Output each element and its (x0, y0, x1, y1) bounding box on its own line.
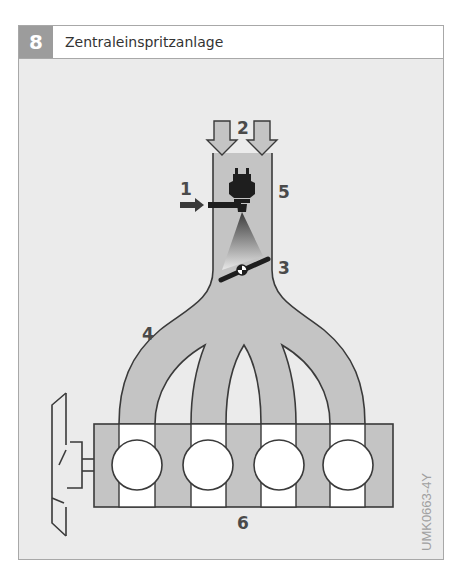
label-2: 2 (237, 118, 249, 138)
air-arrow-right-icon (247, 121, 277, 155)
label-1: 1 (180, 179, 192, 199)
label-3: 3 (278, 258, 290, 278)
flywheel (52, 393, 94, 536)
cylinder-1 (112, 440, 162, 490)
air-arrow-left-icon (207, 121, 237, 155)
engine-block (94, 424, 393, 507)
central-injection-diagram: 1 2 3 4 5 6 UMK0663-4Y (0, 0, 476, 572)
label-5: 5 (278, 182, 290, 202)
cylinder-3 (254, 440, 304, 490)
cylinder-2 (183, 440, 233, 490)
figure-code: UMK0663-4Y (419, 473, 434, 551)
label-6: 6 (237, 513, 249, 533)
fuel-arrow-icon (195, 198, 204, 212)
cylinder-4 (323, 440, 373, 490)
label-4: 4 (142, 324, 154, 344)
